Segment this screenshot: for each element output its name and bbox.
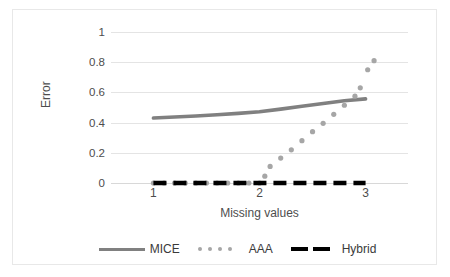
- dot-aaa: [289, 147, 294, 152]
- x-tick-2: 2: [256, 186, 263, 200]
- legend-dot: [208, 247, 212, 251]
- chart-frame: Error 00.20.40.60.81 123 Missing values …: [12, 9, 437, 265]
- legend-swatch-aaa: [198, 243, 244, 255]
- legend-label: Hybrid: [342, 242, 377, 256]
- y-tick-0.6: 0.6: [61, 86, 105, 98]
- dot-aaa: [262, 174, 267, 179]
- dot-aaa: [246, 180, 251, 185]
- legend-dash: [291, 247, 308, 251]
- y-tick-0.8: 0.8: [61, 56, 105, 68]
- dot-aaa: [342, 103, 347, 108]
- legend-swatch-hybrid: [291, 243, 337, 255]
- chart-legend: MICEAAAHybrid: [25, 242, 450, 256]
- y-tick-0: 0: [61, 177, 105, 189]
- legend-label: MICE: [150, 242, 180, 256]
- legend-dash: [313, 247, 330, 251]
- x-axis-title: Missing values: [111, 206, 408, 220]
- y-tick-0.2: 0.2: [61, 147, 105, 159]
- x-tick-1: 1: [150, 186, 157, 200]
- legend-swatch-mice: [99, 243, 145, 255]
- dot-aaa-upper: [365, 67, 370, 72]
- legend-item-aaa[interactable]: AAA: [198, 242, 273, 256]
- dot-aaa: [268, 164, 273, 169]
- dot-aaa: [310, 129, 315, 134]
- legend-label: AAA: [249, 242, 273, 256]
- legend-dot: [218, 247, 222, 251]
- y-axis-title: Error: [39, 81, 53, 108]
- series-aaa: [151, 58, 377, 186]
- legend-item-hybrid[interactable]: Hybrid: [291, 242, 377, 256]
- dot-aaa: [321, 121, 326, 126]
- x-tick-3: 3: [362, 186, 369, 200]
- dot-aaa-upper: [358, 85, 363, 90]
- dot-aaa: [299, 138, 304, 143]
- legend-dot: [228, 247, 232, 251]
- series-layer: [111, 32, 408, 183]
- legend-item-mice[interactable]: MICE: [99, 242, 180, 256]
- y-axis-tick-labels: 00.20.40.60.81: [57, 32, 105, 183]
- dot-aaa: [352, 94, 357, 99]
- legend-dot: [198, 247, 202, 251]
- dot-aaa-upper: [371, 58, 376, 63]
- plot-area: [111, 32, 408, 183]
- x-axis-tick-labels: 123: [111, 186, 408, 204]
- dot-aaa: [331, 112, 336, 117]
- dot-aaa: [278, 155, 283, 160]
- y-tick-1: 1: [61, 26, 105, 38]
- y-tick-0.4: 0.4: [61, 117, 105, 129]
